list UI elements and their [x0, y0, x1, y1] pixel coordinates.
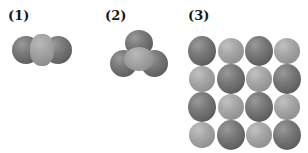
ion-r2c4: [273, 64, 301, 94]
ion-r3c2: [218, 94, 244, 120]
ion-r3c3: [245, 92, 273, 122]
panel-1-label: (1): [8, 9, 29, 22]
ion-r2c3: [246, 66, 272, 92]
ion-r2c1: [189, 66, 215, 92]
ion-r1c1: [188, 36, 216, 66]
ion-r1c2: [218, 38, 244, 64]
ion-r3c1: [188, 92, 216, 122]
ion-r1c3: [245, 36, 273, 66]
ion-r2c2: [217, 64, 245, 94]
ion-r4c3: [246, 122, 272, 148]
ion-r4c2: [217, 120, 245, 150]
ion-r1c4: [274, 38, 300, 64]
central-atom: [30, 34, 54, 66]
panel-3-label: (3): [188, 9, 209, 22]
central-atom: [124, 47, 154, 71]
ion-r3c4: [274, 94, 300, 120]
panel-2-label: (2): [105, 9, 126, 22]
ion-r4c1: [189, 122, 215, 148]
panel-3-lattice: [188, 37, 302, 151]
ion-r4c4: [273, 120, 301, 150]
